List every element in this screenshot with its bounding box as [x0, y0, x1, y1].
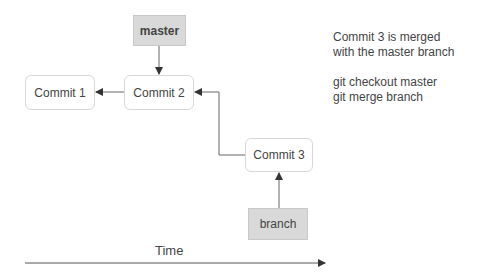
branch-ref: branch — [248, 208, 308, 240]
note-line-1: Commit 3 is merged — [333, 30, 454, 45]
note-line-2: with the master branch — [333, 45, 454, 60]
commit-2-node: Commit 2 — [124, 75, 194, 110]
master-ref: master — [133, 15, 186, 46]
commit-1-node: Commit 1 — [25, 75, 95, 110]
edge-commit3-to-commit2 — [195, 92, 245, 155]
note-command-checkout: git checkout master — [333, 75, 454, 90]
time-axis-label: Time — [155, 243, 183, 258]
commit-3-node: Commit 3 — [245, 138, 313, 172]
merge-note: Commit 3 is merged with the master branc… — [333, 30, 454, 105]
note-command-merge: git merge branch — [333, 90, 454, 105]
